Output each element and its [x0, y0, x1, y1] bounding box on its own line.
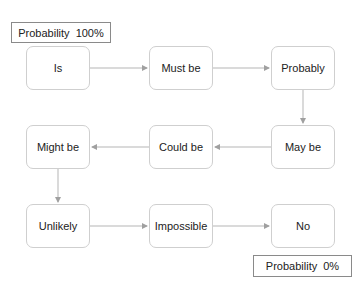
probability-0-label: Probability 0% [253, 255, 352, 277]
node-is: Is [26, 46, 90, 90]
node-may-be: May be [271, 125, 335, 169]
node-probably: Probably [271, 46, 335, 90]
node-could-be: Could be [149, 125, 213, 169]
node-might-be: Might be [26, 125, 90, 169]
node-must-be: Must be [149, 46, 213, 90]
node-unlikely: Unlikely [26, 204, 90, 248]
node-no: No [271, 204, 335, 248]
node-impossible: Impossible [149, 204, 213, 248]
probability-100-label: Probability 100% [11, 22, 111, 43]
